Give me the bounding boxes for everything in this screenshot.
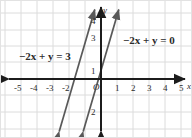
- y-axis-label: y: [103, 6, 107, 15]
- x-tick-label-4: 4: [163, 84, 168, 93]
- x-tick-label-2: 2: [131, 84, 136, 93]
- line-minus2x-plus-y-equals-3: [59, 10, 95, 132]
- equation-label-line-1: −2x + y = 3: [19, 51, 71, 62]
- x-tick-label-1: 1: [115, 84, 120, 93]
- x-axis-label: x: [187, 82, 191, 91]
- x-tick-label--3: -3: [46, 84, 54, 93]
- equation-label-line-2: −2x + y = 0: [123, 35, 175, 46]
- coordinate-plane-svg: [1, 1, 192, 138]
- y-tick-label--2: 2: [91, 108, 96, 117]
- x-tick-label--2: -2: [62, 84, 70, 93]
- y-tick-label-3: 3: [91, 34, 96, 43]
- x-tick-label-3: 3: [147, 84, 152, 93]
- origin-label: O: [93, 83, 100, 92]
- grid-lines: [1, 1, 192, 138]
- x-tick-label--5: -5: [14, 84, 22, 93]
- y-tick-label-4: 4: [91, 17, 96, 26]
- y-tick-label-1: 1: [91, 67, 96, 76]
- graph-figure: -5 -4 -3 -2 1 2 3 4 5 4 3 1 2 O x y −2x …: [0, 0, 192, 138]
- x-tick-label--4: -4: [30, 84, 38, 93]
- x-tick-label-5: 5: [179, 84, 184, 93]
